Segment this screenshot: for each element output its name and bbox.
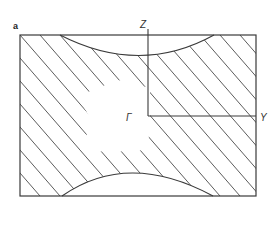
y-label: Y [260, 112, 268, 123]
z-label: Z [139, 19, 147, 30]
brillouin-zone-diagram: a Z Γ Y [0, 0, 279, 242]
hatching [0, 35, 279, 242]
panel-label: a [13, 21, 19, 31]
